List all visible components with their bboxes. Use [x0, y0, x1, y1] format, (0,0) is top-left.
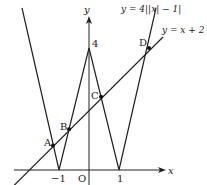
- point-b: [67, 127, 71, 131]
- tick-label-neg1: −1: [51, 173, 66, 184]
- point-d-label: D: [139, 37, 147, 48]
- abs-curve-label: y = 4||x| − 1|: [120, 4, 181, 15]
- point-a-label: A: [43, 137, 52, 148]
- y-axis-label: y: [83, 4, 90, 15]
- tick-label-1: 1: [117, 173, 123, 184]
- point-c-label: C: [91, 90, 99, 101]
- point-a: [51, 144, 55, 148]
- point-b-label: B: [60, 121, 67, 132]
- line-label: y = x + 2: [161, 25, 205, 35]
- point-c: [99, 95, 103, 99]
- origin-label: O: [78, 173, 86, 184]
- point-d: [147, 46, 151, 50]
- x-axis-label: x: [168, 165, 174, 176]
- diagram-canvas: y x O −1 1 4 y = 4||x| − 1| y = x + 2 A …: [0, 0, 207, 185]
- tick-label-4: 4: [92, 38, 98, 49]
- x-axis: [14, 167, 166, 173]
